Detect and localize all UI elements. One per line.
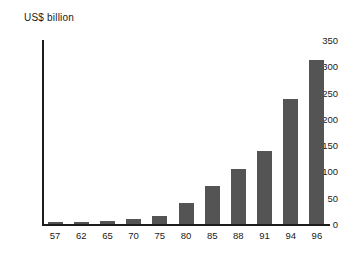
x-tick-label: 85 (199, 230, 225, 241)
x-tick-label: 65 (94, 230, 120, 241)
chart-page: US$ billion 050100150200250300350 576265… (0, 0, 338, 257)
x-tick-label: 91 (252, 230, 278, 241)
x-tick-label: 80 (173, 230, 199, 241)
plot-area: 050100150200250300350 576265707580858891… (0, 0, 338, 257)
bar (126, 219, 141, 224)
x-tick-label: 57 (42, 230, 68, 241)
y-tick-label: 350 (302, 35, 338, 46)
bar (152, 216, 167, 224)
y-axis-line (42, 40, 44, 225)
bar (231, 169, 246, 224)
x-tick-label: 88 (225, 230, 251, 241)
x-axis-line (42, 224, 330, 226)
bar (179, 203, 194, 224)
x-tick-label: 62 (68, 230, 94, 241)
bar (257, 151, 272, 224)
x-tick-label: 94 (278, 230, 304, 241)
bar (48, 222, 63, 224)
bar (309, 60, 324, 224)
bar (205, 186, 220, 224)
x-tick-label: 75 (147, 230, 173, 241)
bar (283, 99, 298, 224)
bar (100, 221, 115, 224)
bar (74, 222, 89, 224)
x-tick-label: 96 (304, 230, 330, 241)
x-tick-label: 70 (121, 230, 147, 241)
